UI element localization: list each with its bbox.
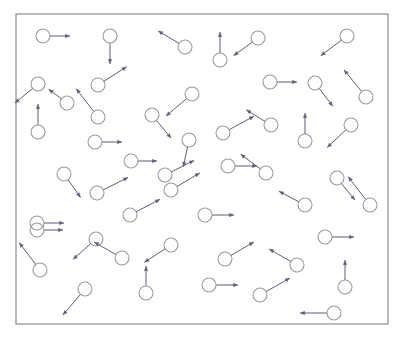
simulation-box-border — [16, 14, 388, 324]
particle-simulation-canvas — [0, 0, 402, 339]
particle-simulation-figure — [0, 0, 402, 339]
